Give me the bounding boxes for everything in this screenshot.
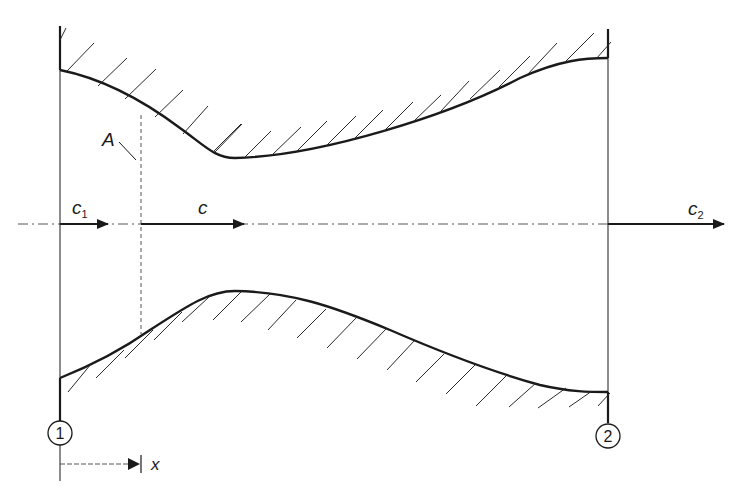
upper-wall-hatching <box>67 33 611 157</box>
section-label-outlet: 2 <box>604 428 613 445</box>
nozzle-diagram: A c1 c c2 x 1 2 <box>0 0 741 497</box>
velocity-label-local: c <box>198 197 208 218</box>
area-label: A <box>101 129 115 150</box>
section-line-inlet <box>60 26 66 481</box>
upper-wall-contour <box>60 58 608 158</box>
coordinate-x-arrow <box>60 455 141 473</box>
section-label-inlet: 1 <box>56 425 65 442</box>
coordinate-x-label: x <box>150 455 160 474</box>
velocity-label-outlet: c2 <box>688 198 704 221</box>
area-leader-line <box>119 142 136 160</box>
velocity-label-inlet: c1 <box>72 197 88 220</box>
